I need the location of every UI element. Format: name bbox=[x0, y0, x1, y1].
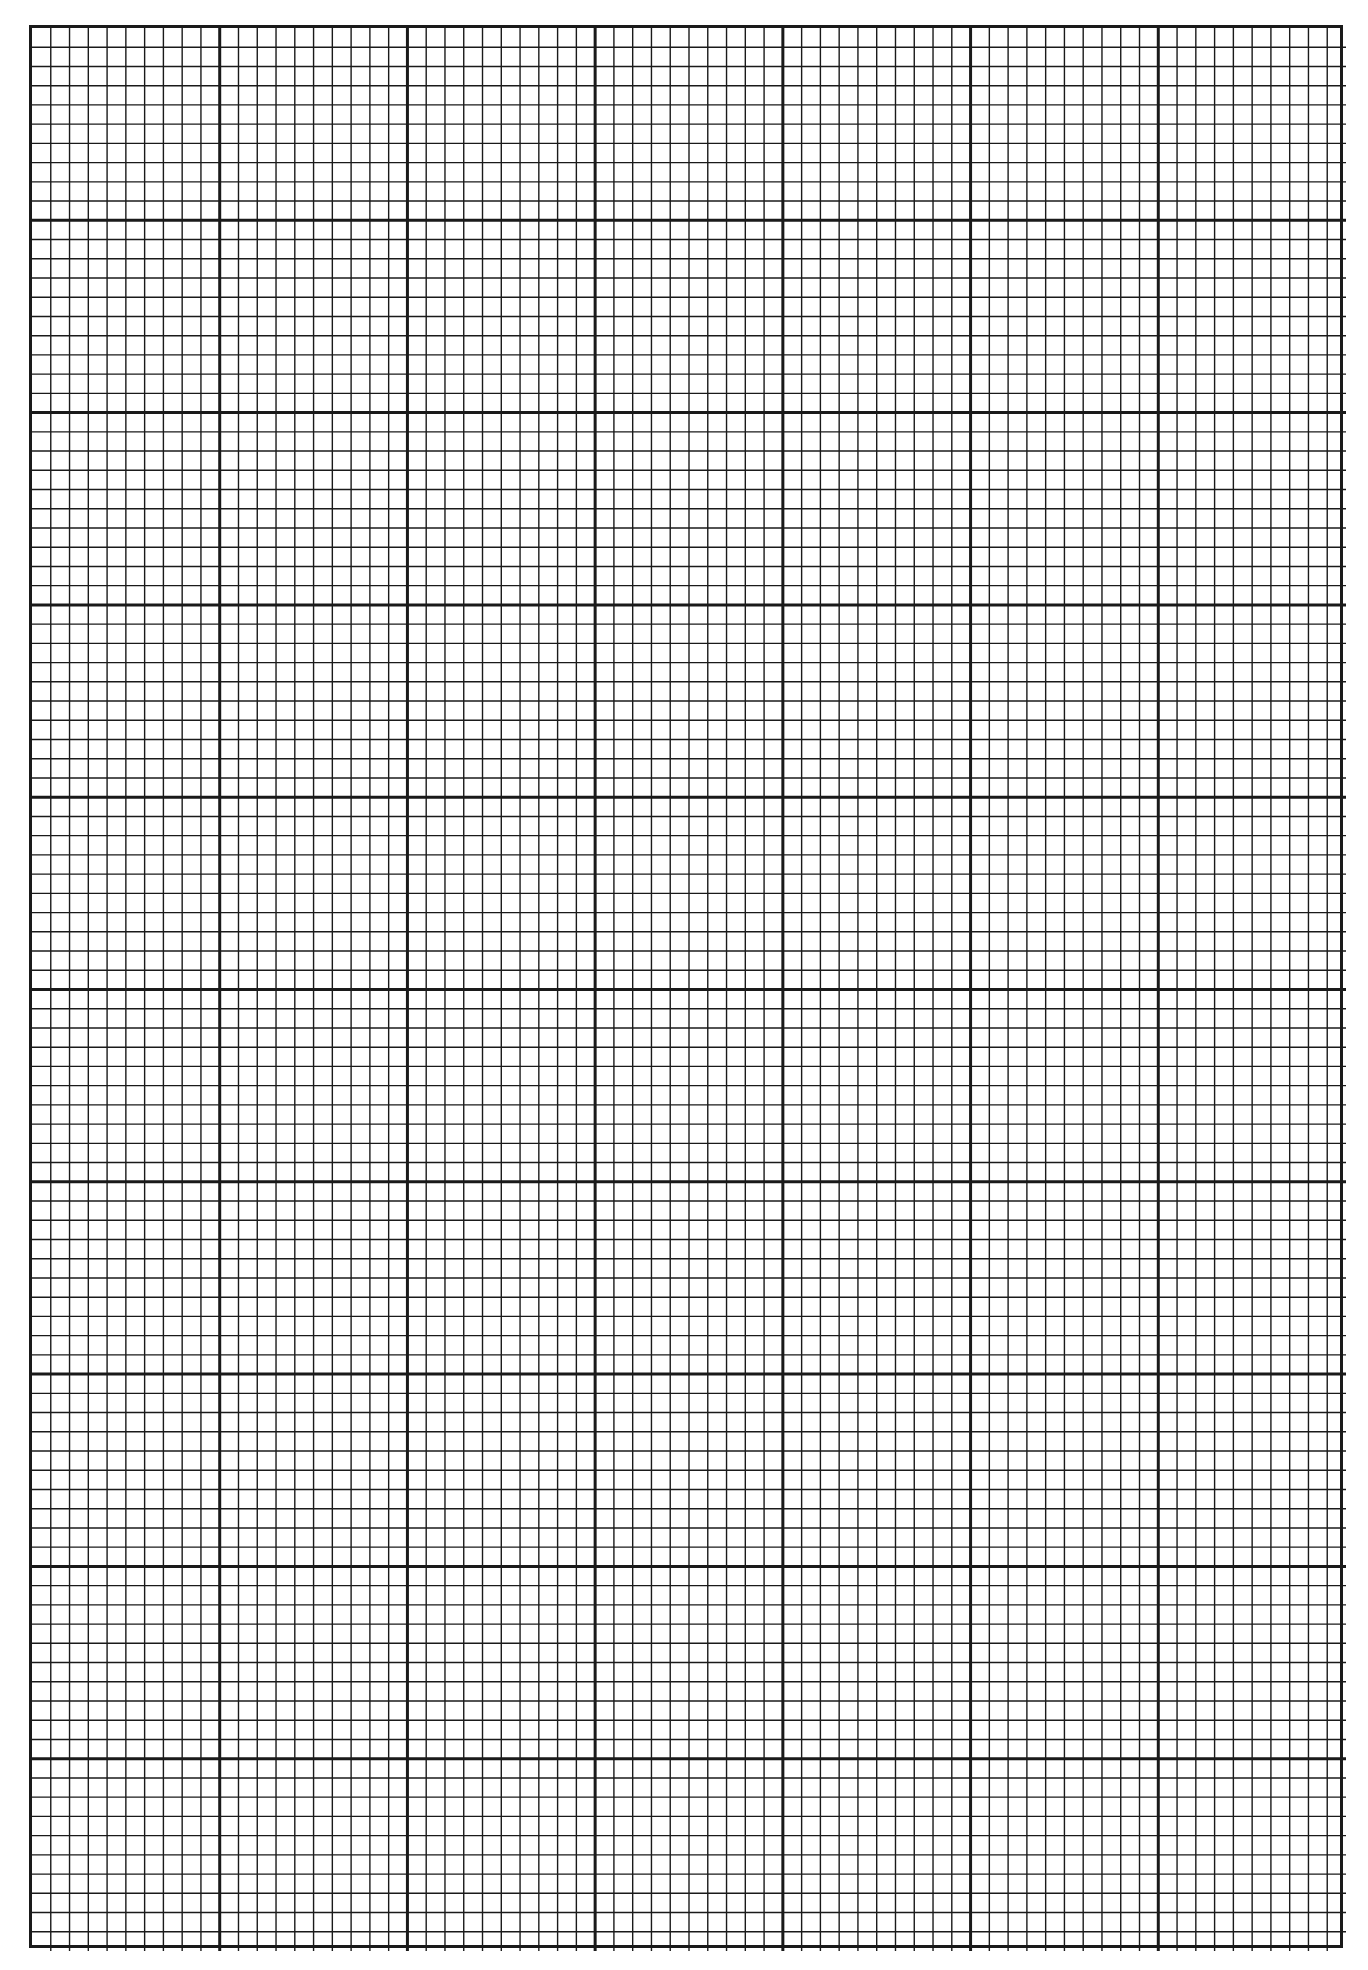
grid-lines bbox=[32, 28, 1346, 1951]
graph-paper-grid bbox=[29, 25, 1343, 1948]
